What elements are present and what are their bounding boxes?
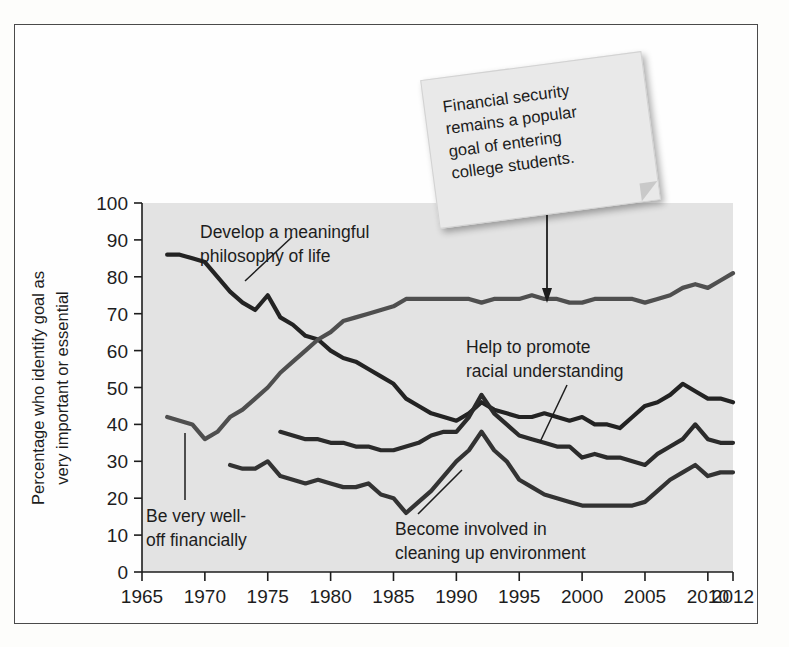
- note-fold-corner: [640, 181, 660, 201]
- annotation-philosophy-line2: philosophy of life: [200, 246, 330, 266]
- y-tick-label: 0: [117, 562, 128, 583]
- x-tick-label: 2005: [624, 586, 666, 607]
- y-axis-title-line1: Percentage who identify goal as: [29, 271, 47, 505]
- annotation-environment-line1: Become involved in: [395, 519, 547, 539]
- x-tick-label: 2012: [712, 586, 754, 607]
- y-tick-label: 50: [107, 378, 128, 399]
- x-tick-label: 1995: [498, 586, 540, 607]
- y-axis-title: Percentage who identify goal as very imp…: [29, 271, 71, 505]
- x-tick-label: 1980: [309, 586, 351, 607]
- y-tick-label: 10: [107, 525, 128, 546]
- x-tick-label: 1990: [435, 586, 477, 607]
- x-tick-label: 1965: [121, 586, 163, 607]
- x-axis-ticks: 1965197019751980198519901995200020052010…: [121, 572, 754, 607]
- callout-note: Financial security remains a popular goa…: [420, 51, 661, 229]
- y-axis-title-line2: very important or essential: [53, 291, 71, 485]
- annotation-financial-line1: Be very well-: [146, 506, 246, 526]
- x-tick-label: 2000: [561, 586, 603, 607]
- chart-svg: 0102030405060708090100 19651970197519801…: [0, 0, 789, 647]
- y-tick-label: 70: [107, 304, 128, 325]
- annotation-financial-line2: off financially: [146, 530, 247, 550]
- y-tick-label: 30: [107, 451, 128, 472]
- y-tick-label: 40: [107, 414, 128, 435]
- x-tick-label: 1985: [372, 586, 414, 607]
- y-axis-ticks: 0102030405060708090100: [96, 193, 142, 583]
- annotation-racial-line2: racial understanding: [466, 361, 624, 381]
- y-tick-label: 100: [96, 193, 128, 214]
- y-tick-label: 80: [107, 267, 128, 288]
- x-tick-label: 1970: [184, 586, 226, 607]
- y-tick-label: 90: [107, 230, 128, 251]
- y-tick-label: 60: [107, 341, 128, 362]
- annotation-philosophy-line1: Develop a meaningful: [200, 222, 369, 242]
- annotation-environment-line2: cleaning up environment: [395, 543, 586, 563]
- x-tick-label: 1975: [247, 586, 289, 607]
- annotation-racial-line1: Help to promote: [466, 337, 591, 357]
- y-tick-label: 20: [107, 488, 128, 509]
- line-chart: 0102030405060708090100 19651970197519801…: [0, 0, 789, 647]
